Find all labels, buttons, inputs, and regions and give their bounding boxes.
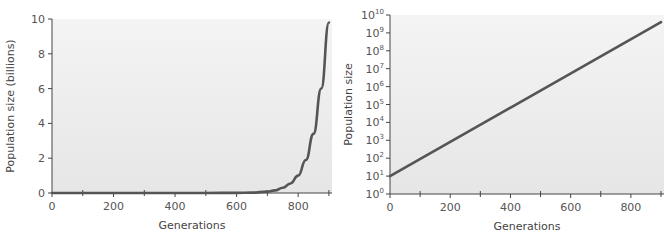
y-axis-label: Population size: [342, 63, 355, 146]
y-tick-label: 8: [38, 48, 45, 61]
x-tick-label: 200: [103, 200, 124, 213]
x-tick-label: 200: [440, 201, 461, 214]
x-axis-label: Generations: [158, 219, 225, 232]
x-tick-label: 0: [49, 200, 56, 213]
linear-population-chart: 02468100200400600800GenerationsPopulatio…: [4, 13, 332, 232]
y-tick-label: 105: [366, 98, 384, 112]
x-axis-label: Generations: [493, 220, 560, 233]
y-axis-label: Population size (billions): [4, 39, 17, 172]
chart-canvas: 02468100200400600800GenerationsPopulatio…: [0, 0, 666, 240]
y-tick-label: 108: [366, 44, 384, 58]
y-tick-label: 101: [366, 169, 384, 183]
x-tick-label: 0: [387, 201, 394, 214]
y-tick-label: 109: [366, 26, 384, 40]
y-tick-label: 4: [38, 117, 45, 130]
x-tick-label: 600: [560, 201, 581, 214]
plot-background: [52, 19, 332, 193]
x-tick-label: 400: [500, 201, 521, 214]
y-tick-label: 2: [38, 152, 45, 165]
y-tick-label: 102: [366, 151, 384, 165]
plot-background: [390, 15, 664, 194]
y-tick-label: 107: [366, 62, 384, 76]
x-tick-label: 800: [620, 201, 641, 214]
y-tick-label: 6: [38, 83, 45, 96]
y-tick-label: 104: [366, 115, 385, 129]
y-tick-label: 1010: [361, 8, 384, 22]
x-tick-label: 800: [288, 200, 309, 213]
y-tick-label: 0: [38, 187, 45, 200]
log-population-chart: 1001011021031041051061071081091010020040…: [342, 8, 664, 233]
y-tick-label: 100: [366, 187, 384, 201]
y-tick-label: 106: [366, 80, 385, 94]
y-tick-label: 10: [31, 13, 45, 26]
x-tick-label: 600: [226, 200, 247, 213]
x-tick-label: 400: [165, 200, 186, 213]
y-tick-label: 103: [366, 133, 384, 147]
